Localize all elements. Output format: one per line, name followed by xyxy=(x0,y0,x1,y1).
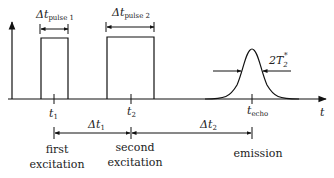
x-axis-label: t xyxy=(320,106,325,119)
emission-label: emission xyxy=(234,147,283,160)
t2-label: t2 xyxy=(127,105,136,119)
second-excitation-label-line2: excitation xyxy=(107,156,162,169)
delta-t2-label: Δt2 xyxy=(199,118,217,132)
first-excitation-label-line2: excitation xyxy=(29,158,84,171)
pulse-echo-diagram: t Δtpulse 1 Δtpulse 2 2T2* t1 t2 techo Δ… xyxy=(0,0,334,178)
t1-label: t1 xyxy=(49,107,58,121)
delta-t1-label: Δt1 xyxy=(87,118,105,132)
second-excitation-label-line1: second xyxy=(115,141,154,154)
pulse-1-width-label: Δtpulse 1 xyxy=(35,8,74,22)
pulse-2-width-label: Δtpulse 2 xyxy=(111,6,150,20)
first-excitation-label-line1: first xyxy=(46,143,69,156)
echo-width-label: 2T2* xyxy=(268,51,288,69)
pulse-1 xyxy=(41,38,68,99)
techo-label: techo xyxy=(247,104,268,118)
pulse-2 xyxy=(107,37,154,99)
